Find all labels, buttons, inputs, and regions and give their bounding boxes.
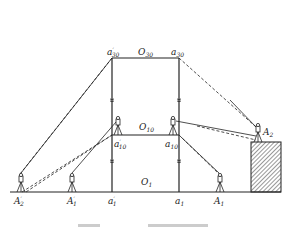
adjacent-building	[251, 142, 281, 192]
label-a30: a30	[171, 47, 184, 58]
theodolite-A1	[216, 173, 224, 192]
label-O1: O1	[141, 177, 152, 188]
theodolite-A1-prime	[68, 173, 76, 192]
sight-lines-solid	[21, 58, 256, 173]
sight-lines-dashed	[20, 58, 256, 192]
label-a10-prime: a′10	[114, 138, 127, 150]
theodolite-A2-prime	[17, 173, 25, 192]
theodolite-O10-left	[114, 116, 122, 135]
label-O30: O30	[138, 47, 153, 58]
label-a1-prime: a′1	[108, 195, 117, 207]
theodolite-O10-right	[169, 116, 177, 135]
label-a10: a10	[165, 139, 178, 150]
figure-caption-cropped	[78, 222, 208, 227]
label-A1: A1	[213, 196, 224, 207]
label-O10: O10	[139, 122, 154, 133]
label-a1: a1	[175, 196, 184, 207]
label-A2-prime: A′2	[13, 195, 24, 207]
label-A1-prime: A′1	[66, 195, 77, 207]
label-a30-prime: a′30	[107, 46, 120, 58]
label-A2: A2	[262, 127, 274, 138]
axis-transfer-diagram: a′30 O30 a30 O10 a′10 a10 A2 O1 A′2 A′1 …	[0, 0, 287, 227]
